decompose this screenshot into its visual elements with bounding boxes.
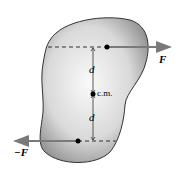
label-F: F xyxy=(159,53,166,65)
center-of-mass-dot xyxy=(91,92,96,97)
top-point-dot xyxy=(105,45,110,50)
label-d-bottom: d xyxy=(89,111,95,123)
bottom-point-dot xyxy=(76,139,81,144)
label-neg-F: −F xyxy=(14,146,28,158)
label-cm: c.m. xyxy=(97,88,113,98)
label-d-top: d xyxy=(89,63,95,75)
